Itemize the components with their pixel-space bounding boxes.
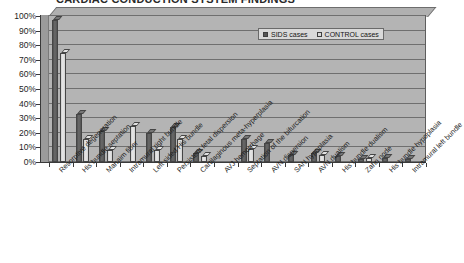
plot-side-wall bbox=[41, 15, 49, 162]
y-axis-tick-label: 70% bbox=[19, 55, 36, 65]
y-axis-tick-mark bbox=[36, 74, 41, 75]
y-axis-tick-mark bbox=[36, 118, 41, 119]
bar-control bbox=[60, 53, 66, 163]
y-axis-tick-mark bbox=[36, 45, 41, 46]
y-axis-tick-mark bbox=[36, 89, 41, 90]
y-axis-tick-mark bbox=[36, 31, 41, 32]
legend-item-sids: SIDS cases bbox=[263, 31, 308, 38]
legend-label-sids: SIDS cases bbox=[271, 31, 308, 38]
bar-top bbox=[61, 49, 70, 53]
legend-label-control: CONTROL cases bbox=[325, 31, 379, 38]
y-axis-tick-label: 100% bbox=[14, 11, 36, 21]
bar-sids bbox=[52, 20, 58, 162]
chart-legend: SIDS cases CONTROL cases bbox=[258, 28, 384, 40]
y-axis-tick-label: 90% bbox=[19, 26, 36, 36]
y-axis-tick-label: 80% bbox=[19, 40, 36, 50]
y-axis-tick-label: 40% bbox=[19, 99, 36, 109]
bar-top bbox=[53, 16, 62, 20]
bar-top bbox=[131, 122, 140, 126]
y-axis-tick-label: 60% bbox=[19, 69, 36, 79]
legend-swatch-sids-icon bbox=[263, 32, 268, 37]
y-axis-tick-label: 10% bbox=[19, 142, 36, 152]
bar-face bbox=[60, 53, 66, 163]
bar-group bbox=[49, 16, 73, 162]
y-axis-tick-mark bbox=[36, 133, 41, 134]
legend-item-control: CONTROL cases bbox=[317, 31, 379, 38]
bar-top bbox=[147, 129, 156, 133]
bar-top bbox=[77, 110, 86, 114]
category-labels: Resorptive degenerationHis bundle septat… bbox=[0, 166, 433, 263]
y-axis-tick-mark bbox=[36, 60, 41, 61]
y-axis-tick-label: 20% bbox=[19, 128, 36, 138]
y-axis-tick-mark bbox=[36, 16, 41, 17]
y-axis-tick-label: 30% bbox=[19, 113, 36, 123]
y-axis-tick-mark bbox=[36, 147, 41, 148]
legend-swatch-control-icon bbox=[317, 32, 322, 37]
y-axis-tick-mark bbox=[36, 104, 41, 105]
y-axis-tick-label: 50% bbox=[19, 84, 36, 94]
chart-title: CARDIAC CONDUCTION SYSTEM FINDINGS bbox=[56, 0, 356, 5]
bar-face bbox=[52, 20, 58, 162]
